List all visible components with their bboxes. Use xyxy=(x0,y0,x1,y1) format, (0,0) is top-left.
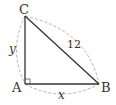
vertex-label-a: A xyxy=(11,80,22,95)
vertex-label-b: B xyxy=(101,80,111,95)
side-label-cb: 12 xyxy=(67,38,81,51)
right-triangle-diagram: C A B 12 y x xyxy=(0,0,116,105)
vertex-label-c: C xyxy=(19,2,29,17)
side-label-ab: x xyxy=(58,88,65,102)
side-cb xyxy=(25,16,99,84)
arc-ac xyxy=(17,16,26,84)
right-angle-marker xyxy=(25,79,30,84)
side-label-ac: y xyxy=(8,42,16,56)
